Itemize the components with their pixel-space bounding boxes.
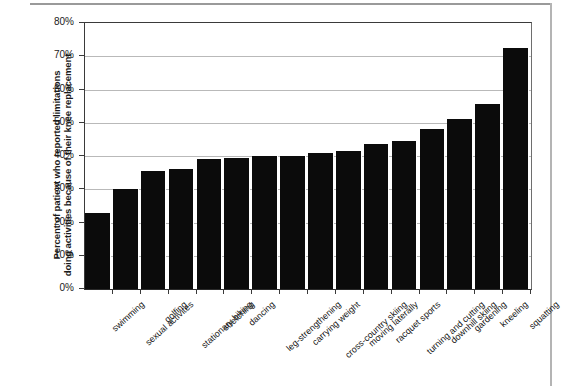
bar	[280, 156, 306, 289]
gridline	[85, 56, 531, 57]
y-tick-label: 10%	[30, 250, 74, 260]
y-tick-label: 60%	[30, 84, 74, 94]
gridline	[85, 90, 531, 91]
bar	[503, 48, 529, 289]
bar	[197, 159, 223, 289]
y-tick-label: 40%	[30, 150, 74, 160]
bar	[252, 156, 278, 289]
y-tick-label: 80%	[30, 17, 74, 27]
bar	[392, 141, 418, 289]
bar	[308, 153, 334, 289]
y-tick-label: 70%	[30, 50, 74, 60]
bar	[336, 151, 362, 289]
bar	[447, 119, 473, 289]
bar	[141, 171, 167, 289]
y-tick-label: 20%	[30, 217, 74, 227]
bar	[113, 189, 139, 289]
bar	[364, 144, 390, 289]
y-tick-label: 50%	[30, 117, 74, 127]
plot-area	[84, 22, 532, 290]
y-tick-label: 0%	[30, 283, 74, 293]
y-tick-label: 30%	[30, 183, 74, 193]
bar	[169, 169, 195, 289]
bar	[85, 213, 111, 289]
bar	[475, 104, 501, 289]
bar	[420, 129, 446, 289]
bar	[224, 158, 250, 289]
